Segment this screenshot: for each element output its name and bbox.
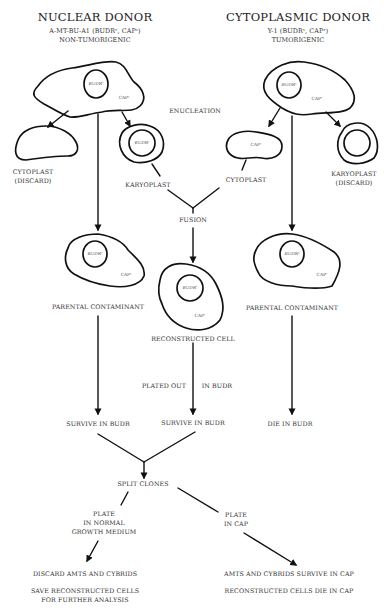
left-karyoplast-nucleus-label: BUDRʳ (135, 140, 150, 145)
nuclear-donor-cell (34, 62, 144, 118)
cytoplasmic-donor-strain: Y-1 (BUDRˢ, CAPʳ) (268, 27, 329, 36)
cytoplasmic-donor-nucleus-label: BUDRˢ (282, 82, 297, 87)
right-parental-cytoplasm-label: CAPʳ (317, 272, 328, 277)
right-cytoplast-label: CYTOPLAST (226, 176, 267, 184)
plated-out-label: PLATED OUT (142, 382, 186, 390)
left-parental-nucleus-label: BUDRʳ (88, 251, 103, 256)
cytoplasmic-donor-phenotype: TUMORIGENIC (272, 36, 325, 45)
fusion-label: FUSION (179, 216, 207, 224)
left-karyoplast-label: KARYOPLAST (125, 181, 170, 189)
left-cytoplast-discard: (DISCARD) (15, 177, 52, 185)
result-normal-line3: FOR FURTHER ANALYSIS (41, 596, 128, 604)
nuclear-donor-phenotype: NON-TUMORIGENIC (59, 36, 130, 45)
nuclear-donor-nucleus-label: BUDRʳ (89, 81, 104, 86)
middle-survive-budr: SURVIVE IN BUDR (161, 419, 225, 427)
cytoplasmic-donor-cytoplasm-label: CAPʳ (312, 96, 323, 101)
right-cytoplast-cytoplasm-label: CAPʳ (251, 142, 262, 147)
nuclear-donor-strain: A-MT-BU-A1 (BUDRʳ, CAPˢ) (49, 27, 140, 36)
nuclear-donor-cytoplasm-label: CAPˢ (119, 95, 130, 100)
result-cap-line1: AMTS AND CYBRIDS SURVIVE IN CAP (224, 570, 354, 578)
right-karyoplast-nucleus (344, 130, 370, 156)
reconstructed-cytoplasm-label: CAPʳ (195, 313, 206, 318)
left-cytoplast-label: CYTOPLAST (13, 168, 54, 176)
left-parental-cytoplasm-label: CAPˢ (121, 272, 132, 277)
reconstructed-cell-shape (159, 264, 223, 330)
right-parental-label: PARENTAL CONTAMINANT (246, 304, 338, 312)
result-normal-line2: SAVE RECONSTRUCTED CELLS (31, 587, 139, 595)
left-survive-budr: SURVIVE IN BUDR (66, 420, 130, 428)
right-karyoplast-label: KARYOPLAST (331, 170, 376, 178)
right-die-budr: DIE IN BUDR (268, 420, 313, 428)
right-karyoplast-discard: (DISCARD) (336, 179, 373, 187)
left-parental-label: PARENTAL CONTAMINANT (52, 303, 144, 311)
reconstructed-nucleus-label: BUDRʳ (183, 285, 198, 290)
plate-normal-line3: GROWTH MEDIUM (72, 528, 137, 536)
right-parental-nucleus-label: BUDRˢ (285, 251, 300, 256)
nuclear-donor-title: NUCLEAR DONOR (38, 11, 153, 24)
plate-cap-line1: PLATE (225, 511, 247, 519)
in-budr-label: IN BUDR (202, 382, 232, 390)
result-normal-line1: DISCARD AMTS AND CYBRIDS (33, 570, 137, 578)
reconstructed-label: RECONSTRUCTED CELL (151, 335, 235, 343)
enucleation-label: ENUCLEATION (169, 107, 221, 115)
cytoplasmic-donor-title: CYTOPLASMIC DONOR (226, 11, 370, 24)
left-cytoplast-shape (16, 126, 78, 160)
plate-normal-line1: PLATE (93, 510, 115, 518)
result-cap-line2: RECONSTRUCTED CELLS DIE IN CAP (225, 587, 354, 595)
split-clones-label: SPLIT CLONES (117, 480, 168, 488)
plate-normal-line2: IN NORMAL (83, 519, 125, 527)
plate-cap-line2: IN CAP (224, 520, 248, 528)
